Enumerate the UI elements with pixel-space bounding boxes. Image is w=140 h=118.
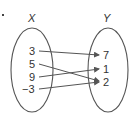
y-element-2: 2 [103,77,109,88]
set-x-oval [11,28,53,112]
x-element-0: 3 [29,46,35,57]
mapping-diagram: X Y 3 5 9 −3 7 1 2 [0,0,140,118]
arrow-9-to-1 [39,69,99,77]
y-element-1: 1 [103,64,109,75]
set-y-title: Y [103,13,110,24]
set-x-title: X [28,13,35,24]
x-element-2: 9 [29,72,35,83]
x-element-3: −3 [22,84,35,95]
diagram-shapes [0,0,140,118]
y-element-0: 7 [103,50,109,61]
x-element-1: 5 [29,59,35,70]
